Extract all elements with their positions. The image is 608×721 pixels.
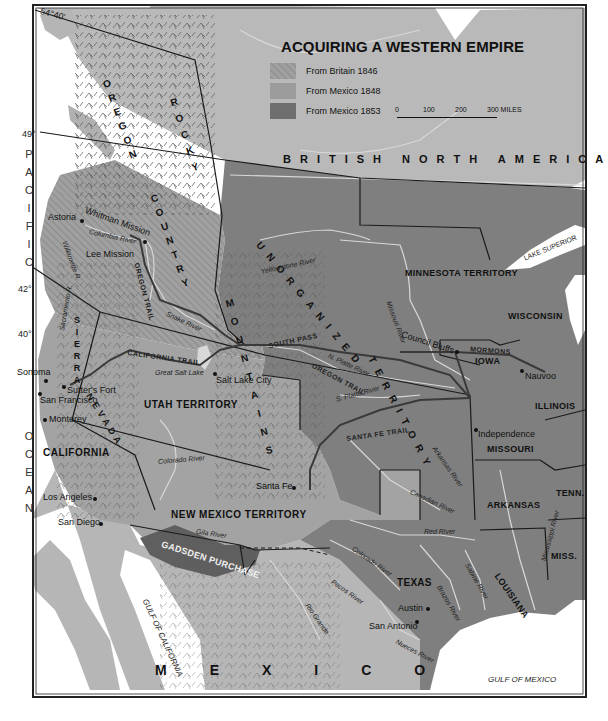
sutters-fort-dot bbox=[62, 385, 66, 389]
legend-label: From Mexico 1848 bbox=[306, 86, 381, 96]
city-austin: Austin bbox=[398, 604, 423, 613]
river-red: Red River bbox=[424, 528, 455, 535]
legend-item-britain-1846: From Britain 1846 bbox=[270, 63, 378, 79]
legend-item-mexico-1848: From Mexico 1848 bbox=[270, 83, 381, 99]
ocean-label: OCEAN bbox=[23, 430, 34, 520]
british-north-america-label: BRITISH NORTH AMERICA bbox=[283, 154, 608, 165]
city-monterey: Monterey bbox=[49, 415, 87, 424]
tenn-label: TENN. bbox=[556, 489, 585, 498]
texas-label: TEXAS bbox=[397, 578, 432, 588]
california-label: CALIFORNIA bbox=[43, 448, 110, 458]
scale-tick: 300 MILES bbox=[487, 106, 522, 113]
scale-bar: 0 100 200 300 MILES bbox=[395, 106, 525, 120]
hatched-swatch-icon bbox=[270, 63, 296, 79]
legend-item-mexico-1853: From Mexico 1853 bbox=[270, 103, 381, 119]
city-independence: Independence bbox=[478, 430, 535, 439]
new-mexico-territory-label: NEW MEXICO TERRITORY bbox=[171, 510, 307, 520]
city-sutters-fort: Sutter's Fort bbox=[67, 386, 116, 395]
iowa-label: IOWA bbox=[475, 357, 500, 366]
gulf-of-mexico-label: GULF OF MEXICO bbox=[488, 676, 556, 684]
missouri-label: MISSOURI bbox=[487, 445, 534, 454]
utah-territory-label: UTAH TERRITORY bbox=[144, 400, 238, 410]
minnesota-territory-label: MINNESOTA TERRITORY bbox=[405, 268, 505, 280]
miss-label: MISS. bbox=[551, 552, 577, 561]
dark-swatch-icon bbox=[270, 103, 296, 119]
whitman-dot bbox=[143, 240, 147, 244]
latitude-40: 40° bbox=[18, 330, 32, 339]
light-swatch-icon bbox=[270, 83, 296, 99]
city-san-francisco: San Francisco bbox=[40, 396, 98, 405]
arkansas-label: ARKANSAS bbox=[487, 501, 540, 510]
legend-label: From Britain 1846 bbox=[306, 66, 378, 76]
city-los-angeles: Los Angeles bbox=[43, 493, 92, 502]
city-san-diego: San Diego bbox=[58, 518, 100, 527]
los-angeles-dot bbox=[93, 497, 97, 501]
nauvoo-dot bbox=[520, 369, 524, 373]
city-sonoma: Sonoma bbox=[17, 368, 51, 377]
scale-tick: 0 bbox=[395, 106, 399, 113]
city-astoria: Astoria bbox=[48, 213, 76, 222]
illinois-label: ILLINOIS bbox=[535, 402, 575, 411]
city-san-antonio: San Antonio bbox=[369, 622, 418, 631]
scale-line bbox=[397, 117, 497, 118]
pacific-label: PACIFIC bbox=[23, 148, 34, 274]
city-lee-mission: Lee Mission bbox=[86, 250, 134, 259]
monterey-dot bbox=[43, 418, 47, 422]
city-santa-fe: Santa Fe bbox=[256, 482, 293, 491]
sierra-label: SIERRA bbox=[72, 315, 81, 387]
sonoma-dot bbox=[44, 379, 48, 383]
wisconsin-label: WISCONSIN bbox=[508, 312, 563, 321]
legend-label: From Mexico 1853 bbox=[306, 106, 381, 116]
council-bluffs-dot bbox=[455, 350, 459, 354]
astoria-dot bbox=[80, 219, 84, 223]
label-great-salt-lake: Great Salt Lake bbox=[155, 369, 204, 376]
latitude-42: 42° bbox=[18, 285, 32, 294]
map-title: ACQUIRING A WESTERN EMPIRE bbox=[281, 38, 524, 55]
scale-tick: 200 bbox=[455, 106, 467, 113]
santa-fe-dot bbox=[292, 486, 296, 490]
city-nauvoo: Nauvoo bbox=[525, 372, 556, 381]
scale-tick: 100 bbox=[423, 106, 435, 113]
austin-dot bbox=[426, 607, 430, 611]
city-salt-lake-city: Salt Lake City bbox=[216, 376, 272, 385]
mexico-label: MEXICO bbox=[155, 663, 468, 677]
latitude-49: 49° bbox=[22, 130, 36, 139]
